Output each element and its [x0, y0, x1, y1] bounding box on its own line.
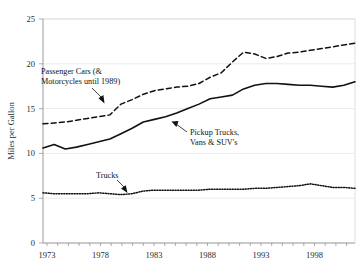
y-axis-title: Miles per Gallon [6, 101, 16, 159]
y-tick-label-25: 25 [27, 14, 36, 24]
x-tickmarks [47, 243, 347, 246]
fuel-economy-line-chart: 25 20 15 10 5 0 Miles per Gallon [0, 0, 358, 276]
x-tick-label-1978: 1978 [92, 250, 109, 260]
y-tickmarks [39, 19, 43, 243]
y-tick-label-5: 5 [31, 193, 35, 203]
annotation-passenger-cars-line1: Passenger Cars (& [41, 67, 103, 76]
x-tick-label-1988: 1988 [199, 250, 216, 260]
annotation-pickup-trucks-line1: Pickup Trucks, [190, 128, 239, 137]
annotation-trucks-line1: Trucks [96, 171, 118, 180]
x-tick-label-1983: 1983 [146, 250, 163, 260]
annotation-passenger-cars-line2: Motorcycles until 1989) [41, 77, 120, 86]
x-tick-label-1973: 1973 [39, 250, 56, 260]
chart-canvas: 25 20 15 10 5 0 Miles per Gallon [0, 0, 358, 276]
y-tick-label-15: 15 [27, 104, 36, 114]
y-tick-label-0: 0 [31, 238, 35, 248]
annotation-pickup-trucks-line2: Vans & SUV's [190, 138, 237, 147]
y-tick-label-20: 20 [27, 59, 36, 69]
y-tick-label-10: 10 [27, 148, 36, 158]
x-tick-label-1998: 1998 [306, 250, 323, 260]
x-tick-label-1993: 1993 [253, 250, 270, 260]
